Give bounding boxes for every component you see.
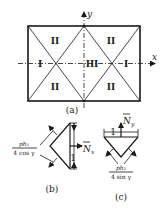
region-label-top-right: II bbox=[107, 36, 115, 46]
load-numerator-b: ph₁ bbox=[19, 140, 29, 148]
pressure-leader-right bbox=[124, 154, 132, 164]
chevron-outline-c bbox=[104, 137, 138, 157]
diagram-canvas: y x I I III II II II II (a) 1 Nx ph₁ 4 c… bbox=[0, 0, 166, 215]
figure-a-plate: y x I I III II II II II (a) bbox=[18, 9, 157, 115]
region-label-center: III bbox=[86, 59, 99, 69]
top-node bbox=[83, 25, 86, 28]
unit-length-c: 1 bbox=[110, 127, 116, 137]
pressure-arrow-right bbox=[128, 148, 136, 156]
y-axis-label: y bbox=[86, 9, 93, 19]
pressure-arrow-lower bbox=[49, 158, 57, 167]
load-denominator-c: 4 sin γ bbox=[111, 173, 131, 181]
caption-b: (b) bbox=[46, 184, 59, 194]
region-label-top-left: II bbox=[51, 36, 59, 46]
region-label-bottom-right: II bbox=[107, 82, 115, 92]
pressure-leader-left bbox=[110, 154, 118, 164]
unit-length-b: 1 bbox=[70, 153, 76, 163]
ny-label: Ny bbox=[122, 116, 135, 128]
pressure-arrow-lower-shaft bbox=[40, 155, 53, 162]
nx-label: Nx bbox=[82, 144, 95, 155]
region-label-right: I bbox=[124, 59, 128, 69]
figure-c-element: 1 Ny ph₂ 4 sin γ (c) bbox=[104, 114, 138, 202]
bottom-node bbox=[83, 100, 86, 103]
load-numerator-c: ph₂ bbox=[116, 164, 127, 172]
caption-c: (c) bbox=[115, 192, 127, 202]
region-label-bottom-left: II bbox=[51, 82, 59, 92]
figure-b-element: 1 Nx ph₁ 4 cos γ (b) bbox=[12, 123, 95, 194]
region-label-left: I bbox=[38, 59, 42, 69]
load-denominator-b: 4 cos γ bbox=[13, 149, 35, 157]
caption-a: (a) bbox=[66, 105, 78, 115]
pressure-arrow-upper-shaft bbox=[40, 131, 53, 145]
pressure-arrow-left bbox=[106, 148, 114, 156]
x-axis-label: x bbox=[152, 52, 157, 62]
